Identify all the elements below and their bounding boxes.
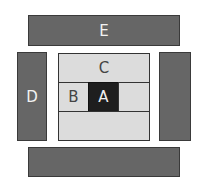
block-right-column (159, 52, 191, 141)
center-block: C B A (58, 53, 150, 141)
block-e-top-bar: E (28, 15, 180, 46)
block-center-bottom (58, 111, 150, 141)
block-c-center-top: C (58, 53, 150, 83)
block-d-left-column: D (17, 52, 47, 141)
block-a-core: A (88, 82, 119, 112)
block-center-right (118, 82, 150, 112)
block-bottom-bar (28, 147, 180, 177)
block-b-center-left: B (58, 82, 89, 112)
